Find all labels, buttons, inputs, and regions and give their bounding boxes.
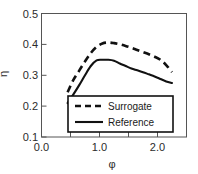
legend-label-reference: Reference [108,117,155,128]
x-axis-title: φ [108,158,115,170]
x-tick-label: 1.0 [92,141,107,153]
y-tick-label: 0.5 [23,8,38,20]
x-tick-label: 0.0 [34,141,49,153]
x-tick-labels: 0.0 1.0 2.0 [34,141,165,153]
y-axis-title: η [0,71,9,77]
chart-figure: 0.5 0.4 0.3 0.2 0.1 0.0 1.0 2.0 η φ Surr… [0,0,198,174]
y-axis-ticks [42,14,47,138]
y-tick-label: 0.4 [23,38,38,50]
series-line-surrogate [68,43,172,93]
y-tick-label: 0.3 [23,69,38,81]
legend-label-surrogate: Surrogate [108,101,152,112]
y-tick-label: 0.2 [23,100,38,112]
line-chart: 0.5 0.4 0.3 0.2 0.1 0.0 1.0 2.0 η φ Surr… [0,0,198,174]
data-series-group [68,43,172,104]
x-tick-label: 2.0 [150,141,165,153]
chart-legend: Surrogate Reference [68,96,173,132]
y-tick-labels: 0.5 0.4 0.3 0.2 0.1 [23,8,38,144]
